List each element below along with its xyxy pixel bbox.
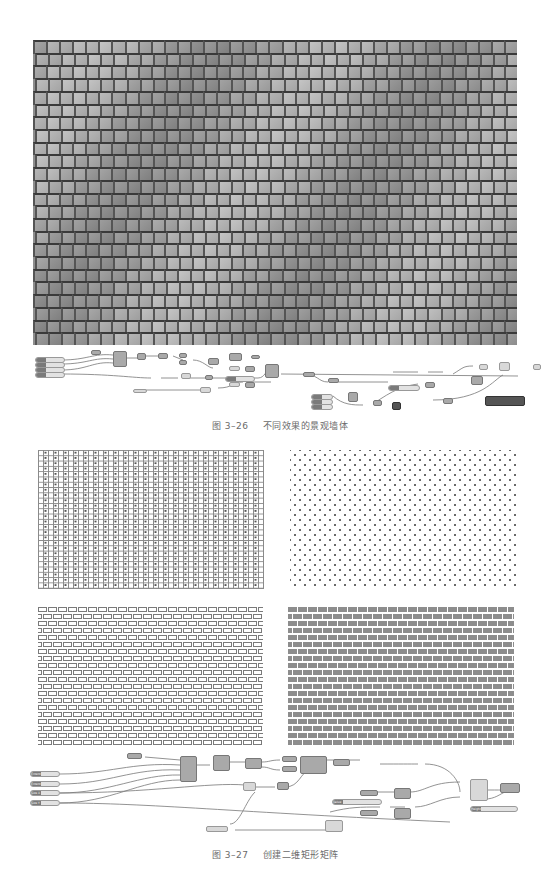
brick	[513, 740, 514, 745]
wall-block	[478, 193, 492, 207]
node-flatten[interactable]	[333, 759, 350, 766]
node-series-1[interactable]	[394, 788, 411, 799]
extent-x-slider[interactable]: Extent X	[30, 771, 60, 777]
node-w[interactable]	[348, 392, 358, 402]
brick	[508, 621, 514, 626]
brick	[58, 607, 67, 612]
brick	[373, 726, 382, 731]
node-m[interactable]	[245, 382, 255, 388]
wall-block	[87, 129, 101, 143]
wall-block	[255, 40, 269, 54]
node-f[interactable]	[229, 353, 242, 361]
brick	[103, 670, 112, 675]
node-number-1[interactable]	[360, 790, 378, 796]
brick	[463, 628, 472, 633]
size-x-slider[interactable]: Size X	[30, 790, 60, 796]
node-branch-2[interactable]	[282, 766, 297, 772]
node-deconstruct[interactable]	[213, 755, 230, 771]
node-weave[interactable]	[300, 756, 327, 774]
node-d[interactable]	[179, 360, 187, 365]
node-panel-input[interactable]	[133, 389, 147, 393]
value-slider[interactable]: Value	[332, 799, 382, 805]
node-rectangular-grid[interactable]	[180, 756, 197, 782]
brick	[478, 705, 487, 710]
node-i[interactable]	[205, 375, 213, 380]
node-x[interactable]	[373, 400, 382, 406]
node-r[interactable]	[425, 382, 435, 388]
brick	[513, 726, 514, 731]
node-cull[interactable]	[245, 758, 262, 769]
node-q[interactable]	[328, 378, 339, 383]
node-a[interactable]	[137, 353, 146, 360]
wall-block	[177, 218, 191, 232]
node-b[interactable]	[158, 353, 168, 359]
node-s[interactable]	[471, 376, 483, 385]
node-move[interactable]	[277, 782, 289, 790]
node-o[interactable]	[200, 387, 211, 393]
wall-block	[85, 40, 99, 54]
slider-4[interactable]	[35, 372, 65, 378]
wall-block	[113, 307, 127, 321]
node-p[interactable]	[303, 372, 315, 377]
wall-block	[61, 78, 75, 92]
node-l[interactable]	[229, 382, 240, 387]
brick	[193, 698, 202, 703]
wall-block	[297, 78, 311, 92]
height-slider[interactable]: Height	[470, 806, 518, 812]
extent-y-slider[interactable]: Extent Y	[30, 781, 60, 787]
node-output-large[interactable]	[485, 396, 525, 406]
brick	[68, 635, 77, 640]
brick	[348, 607, 357, 612]
wall-block	[257, 332, 271, 345]
brick	[218, 649, 227, 654]
graph-wires-2	[30, 752, 520, 837]
node-g[interactable]	[251, 355, 260, 359]
wall-block	[295, 65, 309, 79]
node-branch-1[interactable]	[282, 756, 297, 762]
node-extrude[interactable]	[470, 779, 488, 801]
slider-9[interactable]	[311, 404, 333, 410]
node-plane[interactable]	[127, 753, 142, 759]
brick	[313, 656, 322, 661]
wall-block	[360, 243, 374, 257]
node-modulo-2[interactable]	[325, 820, 343, 832]
brick	[453, 712, 462, 717]
node-panel-input-2[interactable]	[206, 826, 228, 832]
wall-block	[388, 332, 402, 345]
node-series-2[interactable]	[394, 808, 411, 819]
wall-block	[61, 205, 75, 219]
brick	[413, 740, 422, 745]
node-modulo[interactable]	[243, 782, 256, 791]
node-j[interactable]	[229, 366, 240, 371]
wall-block	[35, 205, 49, 219]
wall-block	[506, 78, 517, 92]
wall-block	[452, 320, 466, 334]
node-u[interactable]	[499, 362, 510, 371]
wall-block	[61, 53, 75, 67]
node-h[interactable]	[181, 373, 191, 379]
wall-block	[465, 269, 479, 283]
node-e[interactable]	[208, 358, 219, 365]
node-v[interactable]	[533, 364, 541, 370]
wall-block	[362, 78, 376, 92]
wall-block	[506, 180, 517, 194]
slider-6[interactable]	[388, 385, 420, 391]
node-y[interactable]	[392, 402, 401, 410]
size-y-slider[interactable]: Size Y	[30, 800, 60, 806]
brick	[148, 691, 157, 696]
node-c[interactable]	[179, 353, 187, 358]
brick	[73, 642, 82, 647]
wall-block	[164, 320, 178, 334]
brick	[468, 621, 477, 626]
node-panel-small[interactable]	[91, 350, 101, 355]
node-z[interactable]	[443, 398, 453, 404]
node-n[interactable]	[265, 364, 279, 378]
brick	[363, 614, 372, 619]
node-t[interactable]	[479, 364, 488, 370]
brick	[53, 628, 62, 633]
node-k[interactable]	[245, 366, 255, 372]
node-output[interactable]	[500, 783, 520, 793]
node-rectangle-grid[interactable]	[113, 351, 127, 367]
node-number-2[interactable]	[360, 810, 378, 816]
brick	[318, 719, 327, 724]
